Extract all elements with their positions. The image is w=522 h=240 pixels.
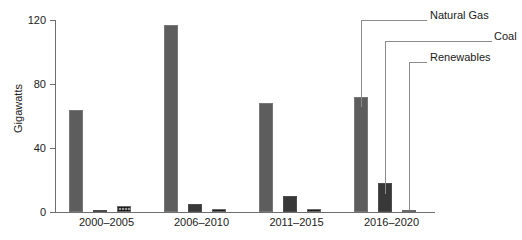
- y-tick-label-120: 120: [0, 15, 46, 26]
- bar-coal-2006-2010: [188, 204, 202, 212]
- bar-natural-gas-2000-2005: [69, 110, 83, 212]
- plot-area: [55, 20, 435, 212]
- leader-line-coal-horizontal: [385, 41, 492, 42]
- bar-renewables-2016-2020: [402, 210, 416, 212]
- x-axis-line: [55, 212, 435, 213]
- leader-line-renewables-horizontal: [409, 62, 427, 63]
- category-label-2011-2015: 2011–2015: [253, 216, 340, 228]
- leader-line-natural-gas-vertical: [361, 20, 362, 107]
- category-label-2006-2010: 2006–2010: [158, 216, 245, 228]
- bar-natural-gas-2011-2015: [259, 103, 273, 212]
- leader-line-coal-vertical: [385, 41, 386, 194]
- y-tick-mark-0: [50, 212, 55, 213]
- category-label-2000-2005: 2000–2005: [63, 216, 150, 228]
- leader-line-renewables-vertical: [409, 62, 410, 210]
- bar-coal-2000-2005: [93, 210, 107, 212]
- bar-group-2006-2010: [158, 20, 245, 212]
- category-label-2016-2020: 2016–2020: [348, 216, 435, 228]
- bar-group-2011-2015: [253, 20, 340, 212]
- bar-renewables-2000-2005: [117, 206, 131, 212]
- y-tick-label-0: 0: [0, 207, 46, 218]
- leader-line-natural-gas-horizontal: [361, 20, 427, 21]
- y-axis-title: Gigawatts: [13, 64, 24, 154]
- bar-coal-2011-2015: [283, 196, 297, 212]
- bar-natural-gas-2016-2020: [354, 97, 368, 212]
- y-tick-0: 0: [0, 207, 46, 218]
- bar-chart: 120 80 40 0 Gigawatts: [0, 0, 522, 240]
- bar-renewables-2006-2010: [212, 209, 226, 212]
- bar-group-2000-2005: [63, 20, 150, 212]
- callout-label-natural-gas: Natural Gas: [430, 9, 489, 21]
- bar-renewables-2011-2015: [307, 209, 321, 212]
- bar-natural-gas-2006-2010: [164, 25, 178, 212]
- callout-label-coal: Coal: [494, 30, 517, 42]
- callout-label-renewables: Renewables: [430, 51, 491, 63]
- y-tick-120: 120: [0, 15, 46, 26]
